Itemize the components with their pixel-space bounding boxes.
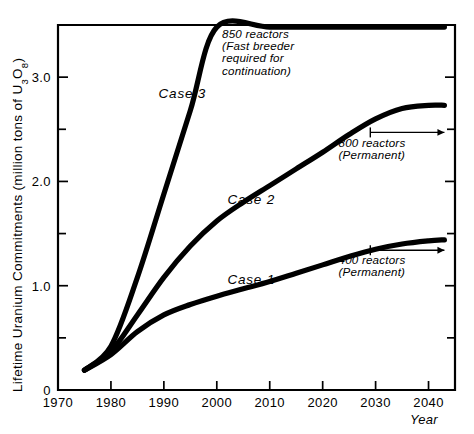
- ann-850: 850 reactors(Fast breederrequired forcon…: [222, 27, 295, 77]
- ann-850-text: 850 reactors(Fast breederrequired forcon…: [222, 27, 295, 77]
- x-tick-label-2020: 2020: [307, 395, 338, 410]
- ann-800-text: 800 reactors(Permanent): [339, 136, 406, 161]
- y-tick-label-1.0: 1.0: [32, 279, 51, 294]
- chart-figure: 19701980199020002010202020302040 01.02.0…: [0, 0, 474, 434]
- x-tick-label-1990: 1990: [149, 395, 180, 410]
- series-label-case-1: Case 1: [227, 272, 275, 287]
- x-axis-title: Year: [410, 412, 438, 427]
- x-tick-label-2010: 2010: [254, 395, 285, 410]
- x-tick-label-2000: 2000: [202, 395, 233, 410]
- ann-400-text: 400 reactors(Permanent): [339, 253, 406, 278]
- ann-800-arrow-head: [437, 129, 444, 136]
- series-inline-labels: Case 1Case 2Case 3: [159, 86, 275, 287]
- x-tick-label-2030: 2030: [360, 395, 391, 410]
- svg-text:Lifetime Uranium Commitments (: Lifetime Uranium Commitments (million to…: [10, 58, 30, 392]
- uranium-commitments-line-chart: 19701980199020002010202020302040 01.02.0…: [0, 0, 474, 434]
- y-axis-title: Lifetime Uranium Commitments (million to…: [10, 58, 30, 392]
- series-label-case-3: Case 3: [159, 86, 207, 101]
- y-tick-label-3.0: 3.0: [32, 70, 51, 85]
- x-axis-tick-labels: 19701980199020002010202020302040: [43, 395, 444, 410]
- series-label-case-2: Case 2: [227, 192, 275, 207]
- y-axis-tick-labels: 01.02.03.0: [32, 70, 51, 398]
- ann-400: 400 reactors(Permanent): [339, 245, 445, 278]
- x-axis-ticks: [58, 381, 429, 390]
- x-tick-label-1980: 1980: [96, 395, 127, 410]
- y-tick-label-2.0: 2.0: [32, 174, 51, 189]
- y-axis-title-o: O: [10, 68, 25, 79]
- y-axis-title-text: Lifetime Uranium Commitments (million to…: [10, 85, 25, 392]
- y-axis-title-close: ): [10, 58, 25, 63]
- y-tick-label-0: 0: [43, 383, 51, 398]
- x-tick-label-2040: 2040: [413, 395, 444, 410]
- ann-400-arrow-head: [437, 247, 444, 254]
